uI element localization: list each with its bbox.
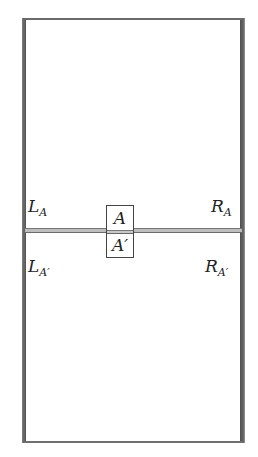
label-l-a-prime-sub: A′: [39, 266, 49, 279]
frame-bottom-border: [24, 441, 243, 443]
frame-top-border: [24, 18, 243, 20]
label-r-a-prime-main: R: [205, 256, 218, 276]
label-r-a-main: R: [211, 196, 224, 216]
center-cell-box: A A′: [106, 205, 134, 258]
label-l-a-prime-main: L: [28, 256, 39, 276]
cell-label-a: A: [107, 210, 133, 227]
label-r-a-prime: RA′: [205, 258, 228, 278]
label-l-a: LA: [28, 198, 47, 218]
label-l-a-sub: A: [39, 206, 47, 219]
center-cell-split-line: [107, 230, 133, 234]
label-r-a: RA: [211, 198, 232, 218]
label-l-a-prime: LA′: [28, 258, 50, 278]
label-r-a-sub: A: [224, 206, 232, 219]
label-r-a-prime-sub: A′: [218, 266, 228, 279]
label-l-a-main: L: [28, 196, 39, 216]
cell-label-a-prime: A′: [107, 237, 133, 254]
